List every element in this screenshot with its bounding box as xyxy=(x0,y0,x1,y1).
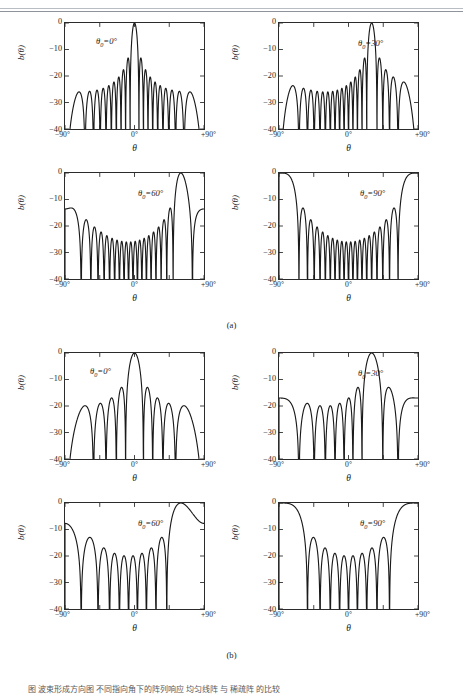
x-tick-label: +90° xyxy=(201,281,216,289)
steering-angle-annotation: θ0=90° xyxy=(360,518,385,530)
x-tick-labels: −90°0°+90° xyxy=(64,131,205,143)
y-axis-label: b(θ) xyxy=(16,375,26,390)
y-tick-label: 0 xyxy=(36,498,62,506)
y-tick-label: −30 xyxy=(250,429,276,437)
y-tick-label: −20 xyxy=(250,552,276,560)
y-tick-labels: 0−10−20−30−40 xyxy=(246,502,276,610)
x-axis-label: θ xyxy=(278,473,419,483)
header-text xyxy=(118,0,358,7)
x-tick-label: −90° xyxy=(269,131,284,139)
y-tick-labels: 0−10−20−30−40 xyxy=(246,22,276,130)
plot-area xyxy=(64,502,205,610)
x-tick-labels: −90°0°+90° xyxy=(278,131,419,143)
y-tick-label: −30 xyxy=(36,249,62,257)
subplot-grid-a: b(θ)0−10−20−30−40θ0=0°−90°0°+90°θb(θ)0−1… xyxy=(0,14,463,314)
x-tick-label: 0° xyxy=(345,131,352,139)
y-tick-label: −30 xyxy=(250,579,276,587)
plot-area xyxy=(64,22,205,130)
y-tick-label: −10 xyxy=(250,375,276,383)
y-tick-label: 0 xyxy=(36,168,62,176)
header-rule-bottom xyxy=(0,11,463,12)
y-tick-label: 0 xyxy=(250,18,276,26)
x-axis-label: θ xyxy=(64,143,205,153)
x-tick-label: +90° xyxy=(415,281,430,289)
x-tick-label: +90° xyxy=(415,461,430,469)
panel-label-b: (b) xyxy=(0,650,463,660)
y-tick-labels: 0−10−20−30−40 xyxy=(246,352,276,460)
y-tick-label: −10 xyxy=(36,195,62,203)
subplot-grid-b: b(θ)0−10−20−30−40θ0=0°−90°0°+90°θb(θ)0−1… xyxy=(0,344,463,644)
x-tick-label: +90° xyxy=(201,461,216,469)
x-tick-label: +90° xyxy=(201,131,216,139)
steering-angle-annotation: θ0=60° xyxy=(138,518,163,530)
x-tick-label: 0° xyxy=(131,281,138,289)
x-tick-label: +90° xyxy=(201,611,216,619)
y-tick-label: −10 xyxy=(250,45,276,53)
y-tick-label: −20 xyxy=(250,72,276,80)
y-tick-label: −30 xyxy=(250,249,276,257)
x-tick-labels: −90°0°+90° xyxy=(64,281,205,293)
y-tick-label: −10 xyxy=(36,375,62,383)
subplot-b-0: b(θ)0−10−20−30−40θ0=0°−90°0°+90°θ xyxy=(18,346,223,494)
y-tick-labels: 0−10−20−30−40 xyxy=(32,22,62,130)
figure-caption: 图 波束形成方向图 不同指向角下的阵列响应 均匀线阵 与 稀疏阵 的比较 xyxy=(28,684,445,696)
y-tick-label: 0 xyxy=(36,348,62,356)
y-axis-label: b(θ) xyxy=(230,525,240,540)
x-tick-labels: −90°0°+90° xyxy=(278,461,419,473)
x-tick-label: −90° xyxy=(55,131,70,139)
running-header xyxy=(0,0,463,14)
x-axis-label: θ xyxy=(64,473,205,483)
y-tick-label: 0 xyxy=(250,348,276,356)
y-tick-label: −20 xyxy=(36,72,62,80)
y-axis-label: b(θ) xyxy=(16,525,26,540)
subplot-a-1: b(θ)0−10−20−30−40θ0=30°−90°0°+90°θ xyxy=(232,16,437,164)
steering-angle-annotation: θ0=0° xyxy=(96,36,117,48)
steering-angle-annotation: θ0=30° xyxy=(358,368,383,380)
y-axis-label: b(θ) xyxy=(230,195,240,210)
x-tick-label: +90° xyxy=(415,611,430,619)
x-axis-label: θ xyxy=(278,293,419,303)
header-rule-top xyxy=(0,8,463,9)
x-tick-label: 0° xyxy=(345,461,352,469)
x-axis-label: θ xyxy=(278,623,419,633)
plot-area xyxy=(278,22,419,130)
subplot-a-2: b(θ)0−10−20−30−40θ0=60°−90°0°+90°θ xyxy=(18,166,223,314)
x-tick-label: −90° xyxy=(55,281,70,289)
x-tick-labels: −90°0°+90° xyxy=(278,281,419,293)
x-axis-label: θ xyxy=(64,623,205,633)
y-tick-label: 0 xyxy=(36,18,62,26)
x-axis-label: θ xyxy=(278,143,419,153)
y-axis-label: b(θ) xyxy=(230,375,240,390)
subplot-b-1: b(θ)0−10−20−30−40θ0=30°−90°0°+90°θ xyxy=(232,346,437,494)
x-tick-labels: −90°0°+90° xyxy=(64,461,205,473)
x-tick-label: 0° xyxy=(131,611,138,619)
x-tick-label: −90° xyxy=(269,281,284,289)
plot-area xyxy=(64,172,205,280)
y-tick-label: −30 xyxy=(36,579,62,587)
figure-page: b(θ)0−10−20−30−40θ0=0°−90°0°+90°θb(θ)0−1… xyxy=(0,0,463,698)
x-tick-label: −90° xyxy=(55,461,70,469)
y-axis-label: b(θ) xyxy=(16,195,26,210)
y-tick-label: −20 xyxy=(36,402,62,410)
x-tick-label: 0° xyxy=(131,461,138,469)
y-tick-label: 0 xyxy=(250,168,276,176)
plot-area xyxy=(64,352,205,460)
y-tick-label: −10 xyxy=(250,525,276,533)
y-tick-label: −20 xyxy=(36,552,62,560)
y-tick-label: −30 xyxy=(36,99,62,107)
panel-label-a: (a) xyxy=(0,320,463,330)
y-tick-labels: 0−10−20−30−40 xyxy=(32,172,62,280)
y-tick-labels: 0−10−20−30−40 xyxy=(32,502,62,610)
panel-group-a: b(θ)0−10−20−30−40θ0=0°−90°0°+90°θb(θ)0−1… xyxy=(0,14,463,344)
y-tick-label: −30 xyxy=(36,429,62,437)
plot-area xyxy=(278,352,419,460)
y-axis-label: b(θ) xyxy=(16,45,26,60)
steering-angle-annotation: θ0=60° xyxy=(138,188,163,200)
y-tick-label: −20 xyxy=(250,402,276,410)
subplot-b-3: b(θ)0−10−20−30−40θ0=90°−90°0°+90°θ xyxy=(232,496,437,644)
y-tick-label: −20 xyxy=(250,222,276,230)
y-tick-label: 0 xyxy=(250,498,276,506)
subplot-a-3: b(θ)0−10−20−30−40θ0=90°−90°0°+90°θ xyxy=(232,166,437,314)
x-tick-label: −90° xyxy=(269,461,284,469)
steering-angle-annotation: θ0=90° xyxy=(360,188,385,200)
